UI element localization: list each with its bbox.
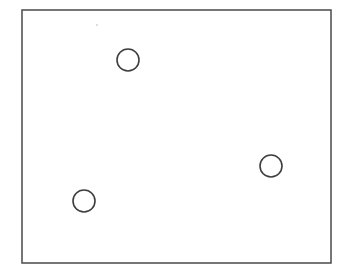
line-drawing-figure — [0, 0, 348, 276]
figure-background — [0, 0, 348, 276]
speck-mark — [96, 24, 98, 26]
figure-canvas — [0, 0, 348, 276]
